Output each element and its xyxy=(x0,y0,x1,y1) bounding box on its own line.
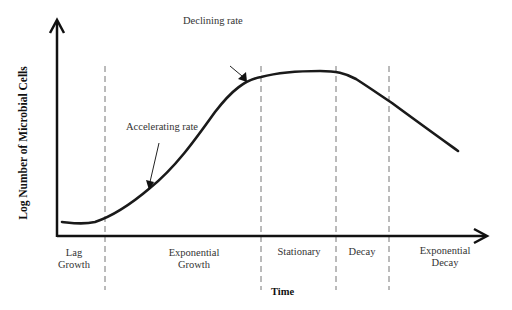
x-axis-label: Time xyxy=(271,286,294,298)
phase-label-decay: Decay xyxy=(342,246,382,258)
phase-label-exponential-decay: Exponential Decay xyxy=(410,245,480,269)
declining-rate-label: Declining rate xyxy=(183,15,243,27)
growth-curve xyxy=(62,71,458,224)
phase-label-stationary: Stationary xyxy=(268,246,330,258)
x-axis xyxy=(57,229,487,243)
y-axis-label: Log Number of Microbial Cells xyxy=(17,66,29,220)
accelerating-rate-label: Accelerating rate xyxy=(126,121,198,133)
y-axis xyxy=(50,20,64,237)
phase-label-exponential-growth: Exponential Growth xyxy=(160,247,228,271)
phase-label-lag-growth: Lag Growth xyxy=(55,247,93,271)
declining-rate-arrow xyxy=(230,66,247,82)
